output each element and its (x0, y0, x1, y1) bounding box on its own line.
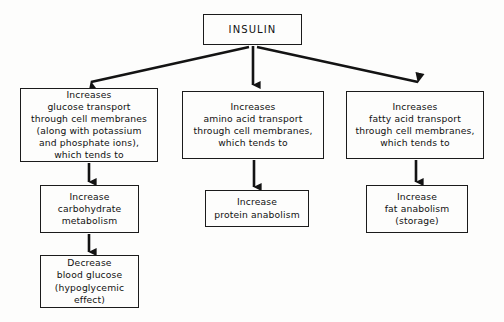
node-fat-anabolism: Increase fat anabolism (storage) (366, 185, 468, 233)
node-carbohydrate-metabolism: Increase carbohydrate metabolism (40, 185, 139, 233)
node-decrease-blood-glucose-label: Decrease blood glucose (hypoglycemic eff… (41, 257, 138, 306)
node-fatty-acid-transport: Increases fatty acid transport through c… (346, 91, 484, 159)
edge-insulin-to-fatty (257, 47, 418, 82)
node-amino-acid-transport: Increases amino acid transport through c… (182, 91, 324, 159)
node-insulin: INSULIN (203, 14, 302, 45)
node-insulin-label: INSULIN (204, 23, 301, 36)
insulin-flowchart: INSULIN Increases glucose transport thro… (0, 0, 504, 322)
node-glucose-transport-label: Increases glucose transport through cell… (21, 89, 157, 162)
node-fatty-acid-transport-label: Increases fatty acid transport through c… (347, 101, 483, 150)
node-protein-anabolism-label: Increase protein anabolism (206, 196, 308, 220)
node-carbohydrate-metabolism-label: Increase carbohydrate metabolism (41, 191, 138, 227)
node-amino-acid-transport-label: Increases amino acid transport through c… (183, 101, 323, 150)
node-decrease-blood-glucose: Decrease blood glucose (hypoglycemic eff… (40, 255, 139, 308)
edge-insulin-to-glucose (91, 47, 249, 82)
node-fat-anabolism-label: Increase fat anabolism (storage) (367, 191, 467, 227)
node-glucose-transport: Increases glucose transport through cell… (20, 88, 158, 162)
node-protein-anabolism: Increase protein anabolism (205, 190, 309, 227)
